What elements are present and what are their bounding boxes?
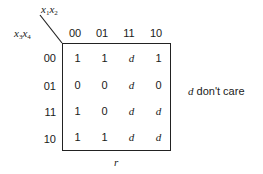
cell-r0-c3: 1 (145, 45, 172, 72)
cell-r2-c0: 1 (64, 98, 91, 125)
row-header: 00 (34, 52, 56, 64)
column-variables-label: x1x2 (41, 3, 58, 19)
legend-text: don't care (194, 85, 245, 97)
cell-r3-c2: d (118, 124, 145, 151)
cell-r3-c3: d (145, 124, 172, 151)
cell-r1-c2: d (118, 72, 145, 99)
cell-r1-c1: 0 (91, 72, 118, 99)
cell-r3-c1: 1 (91, 124, 118, 151)
cell-r2-c2: d (118, 98, 145, 125)
function-label: r (114, 156, 118, 168)
column-header: 00 (63, 27, 87, 39)
column-header: 11 (117, 27, 141, 39)
cell-r0-c2: d (118, 45, 145, 72)
cell-r1-c3: 0 (145, 72, 172, 99)
row-variables-label: x3x4 (14, 27, 31, 43)
cell-r2-c3: d (145, 98, 172, 125)
cell-r0-c0: 1 (64, 45, 91, 72)
cell-r0-c1: 1 (91, 45, 118, 72)
row-header: 01 (34, 80, 56, 92)
dont-care-legend: d don't care (188, 85, 245, 97)
row-header: 10 (34, 133, 56, 145)
column-header: 10 (144, 27, 168, 39)
karnaugh-map-grid: 1 1 d 1 0 0 d 0 1 0 d d 1 1 d d (62, 43, 171, 151)
cell-r2-c1: 0 (91, 98, 118, 125)
row-header: 11 (34, 106, 56, 118)
column-header: 01 (90, 27, 114, 39)
cell-r3-c0: 1 (64, 124, 91, 151)
cell-r1-c0: 0 (64, 72, 91, 99)
